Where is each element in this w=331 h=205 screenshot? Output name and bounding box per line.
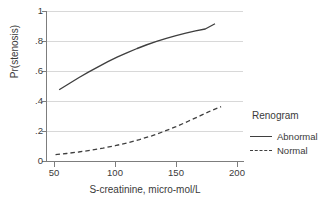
legend-line-sample-solid (250, 132, 272, 141)
legend-label: Normal (277, 146, 308, 156)
legend-entries: AbnormalNormal (250, 130, 330, 157)
legend-line-sample-dashed (250, 146, 272, 155)
legend-entry-abnormal[interactable]: Abnormal (250, 130, 330, 143)
series-line-abnormal (59, 24, 215, 90)
series-line-normal (56, 107, 222, 155)
y-axis-title: Pr(stenosis) (9, 0, 20, 112)
legend-entry-normal[interactable]: Normal (250, 144, 330, 157)
x-axis-title: S-creatinine, micro-mol/L (47, 184, 243, 195)
legend-label: Abnormal (277, 132, 318, 142)
chart-figure: 0.2.4.6.81 50100150200 Pr(stenosis) S-cr… (0, 0, 331, 205)
plot-curves (0, 0, 331, 205)
legend-title: Renogram (252, 110, 330, 121)
legend: Renogram AbnormalNormal (250, 110, 330, 158)
